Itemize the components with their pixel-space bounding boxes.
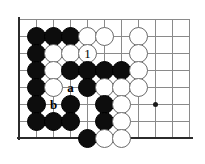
point-label-a[interactable]: a xyxy=(61,78,80,97)
grid-line-vertical xyxy=(172,19,173,138)
go-board-diagram: 1 ab xyxy=(0,0,205,164)
grid-line-vertical xyxy=(189,19,190,138)
black-stone[interactable] xyxy=(61,112,80,131)
grid-line-vertical xyxy=(155,19,156,138)
white-stone[interactable] xyxy=(112,129,131,148)
white-stone[interactable] xyxy=(129,78,148,97)
hoshi-right-icon xyxy=(153,102,158,107)
stone-move-number: 1 xyxy=(79,45,96,62)
board-left-edge xyxy=(18,17,20,140)
white-stone[interactable] xyxy=(95,27,114,46)
point-label-b[interactable]: b xyxy=(44,95,63,114)
